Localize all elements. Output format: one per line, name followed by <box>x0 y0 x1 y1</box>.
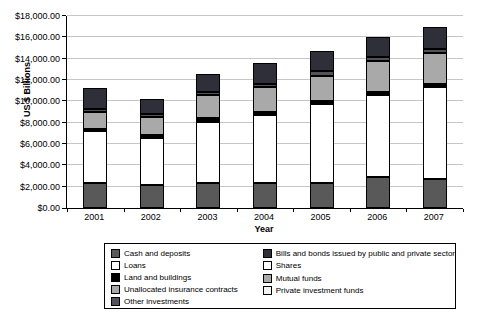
x-axis-tick-label: 2004 <box>236 212 292 222</box>
x-axis-tick-label: 2002 <box>123 212 179 222</box>
bar-segment <box>83 88 107 109</box>
bar-segment <box>196 74 220 92</box>
legend-swatch-icon <box>111 285 120 294</box>
bar-segment <box>140 138 164 185</box>
y-axis-tick-label: $6,000.00 <box>0 139 60 150</box>
y-axis-tick-label: $0.00 <box>0 203 60 214</box>
y-axis-tick <box>62 186 66 187</box>
bar-segment <box>366 177 390 208</box>
legend-swatch-icon <box>111 261 120 270</box>
plot-area <box>66 16 463 209</box>
legend-label: Cash and deposits <box>124 249 190 258</box>
bar-segment <box>423 53 447 84</box>
x-axis-tick-label: 2001 <box>66 212 122 222</box>
bar-segment <box>423 179 447 208</box>
y-axis-tick <box>62 36 66 37</box>
y-axis-tick-label: $14,000.00 <box>0 54 60 65</box>
bar-segment <box>140 135 164 138</box>
legend-swatch-icon <box>263 286 272 295</box>
bar-segment <box>140 117 164 135</box>
y-axis-tick-label: $16,000.00 <box>0 32 60 43</box>
x-axis-tick-label: 2006 <box>349 212 405 222</box>
legend-label: Other investments <box>124 297 189 306</box>
bar-segment <box>83 131 107 184</box>
bar-segment <box>366 37 390 57</box>
bar-segment <box>83 109 107 112</box>
y-axis-tick <box>62 15 66 16</box>
bar-segment <box>196 122 220 184</box>
stacked-bar-2004 <box>253 16 277 208</box>
x-axis-tick-label: 2005 <box>293 212 349 222</box>
y-axis-tick-label: $10,000.00 <box>0 96 60 107</box>
legend-item: Bills and bonds issued by public and pri… <box>263 247 455 260</box>
y-axis-tick-label: $4,000.00 <box>0 160 60 171</box>
stacked-bar-2006 <box>366 16 390 208</box>
bar-segment <box>366 57 390 61</box>
bar-segment <box>253 115 277 183</box>
bar-segment <box>366 61 390 92</box>
bar-segment <box>423 49 447 53</box>
bar-segment <box>253 87 277 112</box>
legend-item: Shares <box>263 260 455 273</box>
legend-label: Bills and bonds issued by public and pri… <box>276 249 455 258</box>
legend-label: Unallocated insurance contracts <box>124 285 238 294</box>
chart-legend: Cash and depositsLoansLand and buildings… <box>104 243 456 309</box>
legend-label: Loans <box>124 261 146 270</box>
bar-segment <box>253 84 277 87</box>
y-axis-tick <box>62 122 66 123</box>
bar-segment <box>83 183 107 208</box>
legend-item: Other investments <box>111 296 263 308</box>
legend-swatch-icon <box>111 273 120 282</box>
bar-segment <box>423 27 447 49</box>
bar-segment <box>310 51 334 72</box>
stacked-bar-chart: US $ Billions Year Cash and depositsLoan… <box>0 0 489 315</box>
legend-swatch-icon <box>111 297 120 306</box>
bar-segment <box>196 95 220 118</box>
x-axis-tick-label: 2007 <box>406 212 462 222</box>
stacked-bar-2002 <box>140 16 164 208</box>
bar-segment <box>253 63 277 83</box>
bar-segment <box>423 84 447 87</box>
bar-segment <box>253 112 277 115</box>
legend-item: Unallocated insurance contracts <box>111 284 263 296</box>
bar-segment <box>83 129 107 131</box>
y-axis-tick <box>62 143 66 144</box>
bar-segment <box>140 185 164 208</box>
legend-swatch-icon <box>111 249 120 258</box>
legend-item: Land and buildings <box>111 271 263 283</box>
bar-segment <box>196 118 220 121</box>
y-axis-tick <box>62 164 66 165</box>
y-axis-tick-label: $12,000.00 <box>0 75 60 86</box>
legend-label: Private investment funds <box>276 286 364 295</box>
legend-label: Land and buildings <box>124 273 191 282</box>
legend-label: Mutual funds <box>276 274 322 283</box>
legend-item: Private investment funds <box>263 285 455 298</box>
y-axis-tick <box>62 100 66 101</box>
bar-segment <box>310 101 334 104</box>
y-axis-tick <box>62 79 66 80</box>
y-axis-tick-label: $18,000.00 <box>0 11 60 22</box>
bar-segment <box>196 183 220 208</box>
y-axis-tick <box>62 58 66 59</box>
bar-segment <box>253 183 277 208</box>
x-axis-tick-label: 2003 <box>179 212 235 222</box>
y-axis-tick-label: $2,000.00 <box>0 182 60 193</box>
legend-item: Cash and deposits <box>111 247 263 259</box>
bar-segment <box>310 183 334 208</box>
bar-segment <box>366 95 390 177</box>
y-axis-tick <box>62 208 66 209</box>
bar-segment <box>366 92 390 95</box>
legend-swatch-icon <box>263 249 272 258</box>
bar-segment <box>423 87 447 179</box>
bar-segment <box>83 112 107 129</box>
legend-label: Shares <box>276 261 301 270</box>
x-axis-title: Year <box>66 224 462 234</box>
bar-segment <box>196 92 220 95</box>
legend-item: Mutual funds <box>263 272 455 285</box>
x-axis-tick <box>463 209 464 212</box>
legend-item: Loans <box>111 259 263 271</box>
bar-segment <box>140 114 164 117</box>
legend-swatch-icon <box>263 274 272 283</box>
bar-segment <box>310 76 334 101</box>
bar-segment <box>310 71 334 75</box>
